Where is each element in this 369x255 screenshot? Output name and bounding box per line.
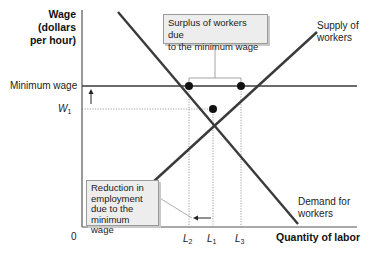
point-l3-minimum-wage: [237, 82, 245, 90]
reduction-leader-line: [158, 197, 192, 218]
y-axis-title-line3: per hour): [18, 34, 76, 47]
surplus-annotation-box: Surplus of workers due to the minimum wa…: [163, 14, 268, 44]
y-axis-title-line1: Wage: [18, 8, 76, 21]
l3-subscript: 3: [241, 238, 245, 245]
reduction-annotation-box: Reduction in employment due to the minim…: [86, 180, 159, 226]
w1-subscript: 1: [67, 108, 71, 115]
surplus-line2: to the minimum wage: [168, 41, 263, 53]
minimum-wage-label: Minimum wage: [10, 80, 77, 92]
l1-label: L1: [207, 233, 216, 248]
reduction-line3: due to the: [91, 204, 154, 215]
supply-label: Supply of workers: [317, 20, 359, 44]
demand-label-line2: workers: [298, 208, 350, 220]
wage-increase-arrow-icon: [89, 89, 94, 104]
demand-label: Demand for workers: [298, 196, 350, 220]
reduction-line1: Reduction in: [91, 183, 154, 194]
y-axis-title: Wage (dollars per hour): [18, 8, 76, 47]
origin-label: 0: [71, 231, 77, 243]
supply-label-line1: Supply of: [317, 20, 359, 32]
point-equilibrium: [209, 105, 217, 113]
reduction-line4: minimum wage: [91, 215, 154, 236]
employment-reduction-arrow-icon: [193, 216, 211, 221]
supply-curve: [141, 32, 317, 193]
l1-subscript: 1: [213, 238, 217, 245]
demand-label-line1: Demand for: [298, 196, 350, 208]
x-axis-title: Quantity of labor: [276, 231, 360, 243]
l2-subscript: 2: [189, 238, 193, 245]
y-axis-title-line2: (dollars: [18, 21, 76, 34]
l3-label: L3: [235, 233, 244, 248]
w1-label: W1: [58, 103, 71, 118]
surplus-line1: Surplus of workers due: [168, 17, 263, 41]
point-l2-minimum-wage: [185, 82, 193, 90]
supply-label-line2: workers: [317, 32, 359, 44]
l2-label: L2: [183, 233, 192, 248]
